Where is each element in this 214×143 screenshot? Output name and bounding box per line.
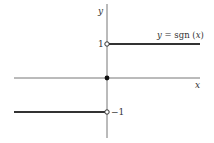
curve-label: y = sgn (x) bbox=[156, 30, 204, 40]
sgn-function-plot: y x 1 −1 y = sgn (x) bbox=[0, 0, 214, 143]
origin-point bbox=[105, 76, 110, 81]
tick-label-1: 1 bbox=[98, 39, 104, 49]
open-point-negative bbox=[105, 110, 109, 114]
y-axis-label: y bbox=[97, 6, 104, 16]
curve-label-close: ) bbox=[200, 30, 203, 40]
plot-canvas: y x 1 −1 y = sgn (x) bbox=[0, 0, 214, 143]
curve-label-eq: = sgn ( bbox=[162, 30, 196, 40]
tick-label-neg1: −1 bbox=[111, 107, 124, 117]
open-point-positive bbox=[105, 42, 109, 46]
x-axis-label: x bbox=[195, 80, 200, 90]
